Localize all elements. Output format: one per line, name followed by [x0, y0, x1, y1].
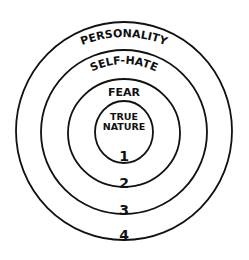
- label-nature: NATURE: [103, 121, 146, 132]
- number-3: 3: [119, 202, 129, 218]
- concentric-rings-diagram: PERSONALITY SELF-HATE FEAR TRUE NATURE 1…: [0, 0, 249, 260]
- label-personality: PERSONALITY: [79, 27, 170, 48]
- number-1: 1: [119, 148, 129, 164]
- number-2: 2: [119, 175, 129, 191]
- label-self-hate: SELF-HATE: [88, 54, 160, 74]
- label-fear: FEAR: [108, 86, 141, 99]
- number-4: 4: [119, 227, 129, 243]
